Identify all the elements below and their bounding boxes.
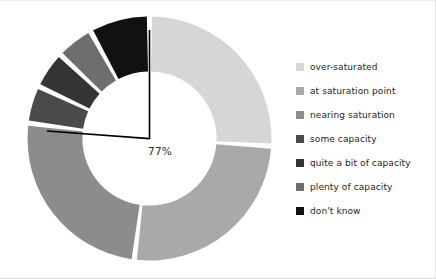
legend-swatch-icon xyxy=(296,207,304,215)
legend-swatch-icon xyxy=(296,135,304,143)
legend-swatch-icon xyxy=(296,87,304,95)
percent-annotation: 77% xyxy=(148,145,172,157)
legend-item[interactable]: some capacity xyxy=(296,127,432,151)
legend-item[interactable]: quite a bit of capacity xyxy=(296,151,432,175)
legend-swatch-icon xyxy=(296,183,304,191)
legend-item-label: at saturation point xyxy=(310,86,396,96)
donut-svg xyxy=(0,0,290,279)
donut-slice[interactable] xyxy=(27,126,139,259)
legend-item[interactable]: nearing saturation xyxy=(296,103,432,127)
donut-chart-figure: 77% over-saturatedat saturation pointnea… xyxy=(0,0,436,279)
legend-swatch-icon xyxy=(296,159,304,167)
legend-item-label: nearing saturation xyxy=(310,110,395,120)
donut-slice[interactable] xyxy=(137,144,271,260)
legend-item-label: some capacity xyxy=(310,134,377,144)
donut-plot-area: 77% xyxy=(0,0,290,279)
legend-item-label: plenty of capacity xyxy=(310,182,393,192)
legend-item-label: don't know xyxy=(310,206,361,216)
legend-item-label: over-saturated xyxy=(310,62,378,72)
legend-item[interactable]: at saturation point xyxy=(296,79,432,103)
donut-slice[interactable] xyxy=(151,17,272,144)
legend-item[interactable]: don't know xyxy=(296,199,432,223)
legend-item[interactable]: plenty of capacity xyxy=(296,175,432,199)
legend-item-label: quite a bit of capacity xyxy=(310,158,411,168)
chart-legend: over-saturatedat saturation pointnearing… xyxy=(296,55,432,223)
legend-swatch-icon xyxy=(296,111,304,119)
legend-swatch-icon xyxy=(296,63,304,71)
legend-item[interactable]: over-saturated xyxy=(296,55,432,79)
